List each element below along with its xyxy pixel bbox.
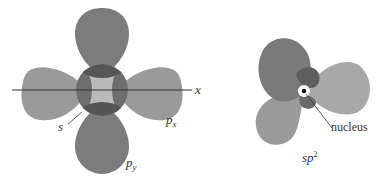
py-label: py: [125, 155, 137, 172]
nucleus-label: nucleus: [331, 120, 368, 134]
orbital-svg: x s px py nucleus sp2: [0, 0, 381, 183]
orbital-diagram: x s px py nucleus sp2: [0, 0, 381, 183]
sp2-caption: sp2: [302, 150, 318, 165]
right-panel-sp2: nucleus sp2: [256, 38, 370, 165]
s-label: s: [58, 119, 63, 134]
nucleus-dot: [302, 89, 306, 93]
left-panel-orbitals: x s px py: [12, 8, 201, 174]
s-leader-line: [68, 112, 82, 124]
x-axis-label: x: [194, 82, 201, 97]
